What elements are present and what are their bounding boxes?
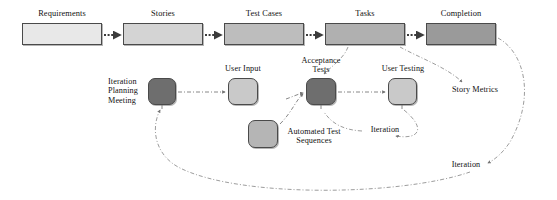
node-label-automated-test-sequences: Automated Test Sequences (276, 127, 352, 146)
node-user-testing[interactable] (388, 78, 417, 105)
node-label-user-testing: User Testing (370, 64, 436, 73)
node-user-input[interactable] (228, 78, 258, 105)
node-automated-test-sequences[interactable] (248, 120, 278, 148)
arrow-left-into-acceptance (286, 93, 303, 99)
node-acceptance-tests[interactable] (306, 78, 336, 105)
node-label-user-input: User Input (213, 64, 273, 73)
stage-box-requirements[interactable] (22, 23, 102, 45)
node-label-iteration-planning-meeting: Iteration Planning Meeting (108, 77, 148, 105)
node-label-acceptance-tests: Acceptance Tests (283, 56, 359, 75)
process-flow-diagram: Requirements Stories Test Cases Tasks Co… (0, 0, 557, 200)
stage-box-stories[interactable] (123, 23, 203, 45)
stage-label-tasks: Tasks (325, 9, 405, 18)
stage-node-stubs (162, 105, 402, 109)
curve-outer-iteration-return (155, 110, 470, 190)
stage-box-tasks[interactable] (325, 23, 405, 45)
annotation-story-metrics: Story Metrics (443, 85, 507, 94)
node-arrows (178, 92, 385, 124)
stage-label-requirements: Requirements (22, 9, 102, 18)
annotation-iteration-inner: Iteration (365, 125, 405, 134)
stage-label-completion: Completion (422, 9, 500, 18)
stage-box-completion[interactable] (426, 23, 496, 45)
stage-label-stories: Stories (123, 9, 203, 18)
stage-label-test-cases: Test Cases (224, 9, 304, 18)
annotation-iteration-outer: Iteration (444, 160, 488, 169)
curve-completion-to-outer-iteration (488, 38, 525, 163)
arrow-automated-to-acceptance (280, 94, 303, 124)
stage-box-test-cases[interactable] (224, 23, 304, 45)
node-iteration-planning-meeting[interactable] (148, 78, 176, 105)
